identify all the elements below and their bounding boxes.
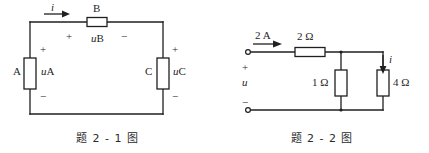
resistor-4ohm-label: 4 Ω — [393, 77, 409, 88]
figure-caption-2-2: 题 2 - 2 图 — [215, 129, 429, 145]
source-current-arrow — [253, 41, 282, 48]
voltage-subscript-ua: A — [47, 65, 55, 77]
element-b-body — [87, 18, 107, 27]
resistor-2ohm-body — [295, 48, 325, 57]
element-b-label: B — [93, 3, 100, 14]
figure-page: i B A C uA uB uC + − + − + − 题 2 - 1 图 — [0, 0, 429, 153]
polarity-minus-a: − — [40, 91, 46, 102]
polarity-minus-c: − — [172, 91, 178, 102]
port-polarity-minus: − — [242, 97, 248, 108]
resistor-1ohm-label: 1 Ω — [312, 77, 328, 88]
voltage-label-uc: uC — [173, 66, 186, 77]
element-c-label: C — [145, 66, 152, 77]
port-voltage-label-u: u — [242, 77, 248, 88]
branch-current-label-i: i — [389, 54, 392, 65]
figure-2-1: i B A C uA uB uC + − + − + − 题 2 - 1 图 — [0, 0, 215, 153]
resistor-2ohm-label: 2 Ω — [297, 31, 313, 42]
resistor-1ohm-body — [335, 70, 347, 96]
polarity-minus-b: − — [121, 31, 127, 42]
current-arrow-i — [44, 11, 70, 18]
voltage-subscript-ub: B — [97, 32, 104, 44]
voltage-label-ua: uA — [41, 66, 54, 77]
source-value-label: 2 A — [255, 30, 271, 41]
port-polarity-plus: + — [242, 62, 248, 73]
polarity-plus-b: + — [66, 31, 72, 42]
element-a-body — [24, 58, 36, 89]
voltage-label-ub: uB — [91, 33, 104, 44]
element-a-label: A — [13, 66, 21, 77]
figure-caption-2-1: 题 2 - 1 图 — [0, 129, 215, 145]
junction-node-bottom — [339, 108, 342, 111]
element-c-body — [157, 58, 169, 89]
junction-node-top — [339, 50, 342, 53]
figure-2-2: 2 A 2 Ω 1 Ω 4 Ω i u + − 题 2 - 2 图 — [215, 0, 429, 153]
current-label-i: i — [51, 2, 54, 13]
terminal-negative — [246, 108, 251, 113]
polarity-plus-a: + — [40, 44, 46, 55]
polarity-plus-c: + — [172, 44, 178, 55]
terminal-positive — [246, 50, 251, 55]
voltage-subscript-uc: C — [179, 65, 186, 77]
